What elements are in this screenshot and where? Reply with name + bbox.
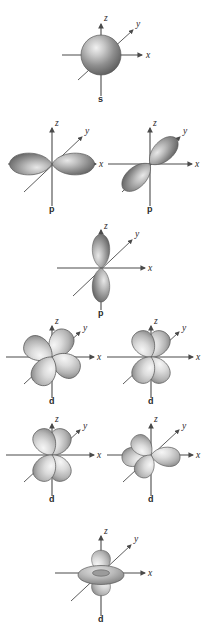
orbital-label-dxz: d (148, 396, 154, 406)
orbital-py: z y x p (108, 118, 200, 214)
axis-label-x: x (195, 450, 201, 460)
orbital-label-s: s (98, 94, 103, 104)
orbital-px: z y x p (8, 118, 104, 214)
axis-label-z: z (54, 414, 59, 424)
orbital-label-dz2: d (98, 614, 104, 624)
orbital-label-px: p (49, 204, 55, 214)
axis-label-x: x (147, 263, 153, 273)
dz2-torus (78, 566, 124, 585)
axis-label-y: y (135, 19, 141, 29)
axis-label-x: x (98, 159, 104, 169)
axis-label-y: y (82, 323, 88, 333)
axis-label-x: x (195, 352, 201, 362)
orbital-s: z y x s (62, 13, 151, 104)
orbital-dx2y2: z y x d (107, 414, 201, 504)
axis-label-z: z (153, 316, 158, 326)
orbital-label-dxy: d (49, 396, 55, 406)
axis-label-z: z (153, 414, 158, 424)
orbital-dz2: z y x d (55, 526, 153, 624)
orbital-pz: z y x p (57, 221, 153, 318)
axis-label-x: x (96, 352, 102, 362)
orbital-label-dyz: d (49, 494, 55, 504)
axis-label-x: x (145, 50, 151, 60)
axis-label-y: y (182, 126, 188, 136)
orbital-label-pz: p (98, 308, 104, 318)
orbital-label-py: p (147, 204, 153, 214)
orbital-dxy: z y x d (6, 316, 102, 406)
axis-label-y: y (181, 323, 187, 333)
axis-label-z: z (103, 526, 108, 536)
orbital-label-dx2y2: d (148, 494, 154, 504)
axis-label-z: z (103, 13, 108, 23)
axis-label-y: y (133, 534, 139, 544)
axis-label-y: y (84, 126, 90, 136)
orbital-dyz: z y x d (6, 414, 102, 504)
axis-label-z: z (54, 316, 59, 326)
axis-label-x: x (147, 568, 153, 578)
axis-label-z: z (54, 118, 59, 128)
orbital-dxz: z y x d (107, 316, 201, 406)
axis-label-x: x (194, 159, 200, 169)
orbital-figure: z y x s z y x p z y x p (0, 0, 203, 635)
axis-label-y: y (82, 421, 88, 431)
axis-label-y: y (181, 421, 187, 431)
axis-label-y: y (134, 229, 140, 239)
axis-label-z: z (103, 221, 108, 231)
s-orbital-sphere (81, 35, 121, 75)
axis-label-x: x (96, 450, 102, 460)
orbital-diagram-canvas: z y x s z y x p z y x p (0, 0, 203, 635)
axis-label-z: z (152, 118, 157, 128)
